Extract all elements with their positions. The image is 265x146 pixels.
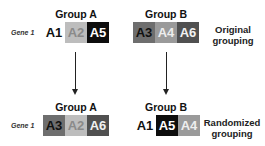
cell-bottom-a-1: A2 <box>65 115 87 136</box>
arrow-shaft-right <box>166 52 168 90</box>
cell-top-b-2: A6 <box>177 22 199 43</box>
arrow-shaft-left <box>75 52 77 90</box>
group-a-title-top: Group A <box>43 8 109 20</box>
cell-bottom-b-0: A1 <box>134 115 156 136</box>
group-b-title-top: Group B <box>133 8 199 20</box>
cell-top-b-0: A3 <box>133 22 155 43</box>
cell-top-a-1: A2 <box>65 22 87 43</box>
cell-bottom-b-1: A5 <box>156 115 178 136</box>
group-a-cells-bottom: A3 A2 A6 <box>43 115 109 136</box>
cell-bottom-b-2: A4 <box>178 115 200 136</box>
side-label-line2: grouping <box>201 128 263 139</box>
cell-top-a-0: A1 <box>43 22 65 43</box>
original-grouping-label: Original grouping <box>205 24 261 46</box>
randomized-grouping-label: Randomized grouping <box>201 117 263 139</box>
group-a-title-bottom: Group A <box>43 101 109 113</box>
gene-label-bottom: Gene 1 <box>11 122 34 129</box>
group-b-title-bottom: Group B <box>133 101 199 113</box>
side-label-line1: Randomized <box>201 117 263 128</box>
cell-bottom-a-0: A3 <box>43 115 65 136</box>
cell-bottom-a-2: A6 <box>87 115 109 136</box>
group-b-cells-top: A3 A4 A6 <box>133 22 199 43</box>
cell-top-b-1: A4 <box>155 22 177 43</box>
cell-top-a-2: A5 <box>87 22 109 43</box>
group-b-cells-bottom: A1 A5 A4 <box>134 115 200 136</box>
side-label-line1: Original <box>205 24 261 35</box>
down-arrow-icon <box>72 89 78 95</box>
side-label-line2: grouping <box>205 35 261 46</box>
group-a-cells-top: A1 A2 A5 <box>43 22 109 43</box>
gene-label-top: Gene 1 <box>11 29 34 36</box>
down-arrow-icon <box>163 89 169 95</box>
